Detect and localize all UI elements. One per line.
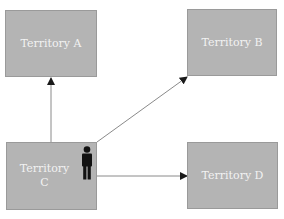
territory-a-label: Territory A (21, 37, 82, 51)
territory-d-label: Territory D (202, 169, 264, 183)
territory-diagram: Territory A Territory B Territory C Terr… (0, 0, 284, 219)
territory-a-box: Territory A (5, 10, 97, 77)
territory-b-box: Territory B (187, 9, 277, 76)
territory-c-label: Territory C (20, 162, 70, 190)
territory-d-box: Territory D (187, 142, 278, 209)
territory-b-label: Territory B (201, 36, 262, 50)
person-icon (81, 146, 93, 180)
arrow-c-to-b (97, 77, 187, 142)
